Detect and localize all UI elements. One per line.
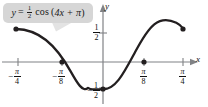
point-x-intercept-right — [141, 59, 146, 64]
numerator: π — [58, 68, 65, 76]
y-tick-label-one-half: 1 2 — [93, 24, 100, 42]
y-axis-label: y — [105, 1, 109, 11]
y-tick-label-neg-one-half: − 1 2 — [87, 82, 100, 100]
numerator: π — [140, 68, 147, 76]
equation-coefficient-fraction: 12 — [27, 5, 33, 20]
fraction: 1 2 — [93, 82, 100, 100]
point-minimum — [100, 86, 105, 91]
equation-function: cos — [35, 6, 49, 17]
callout-pointer — [52, 23, 72, 32]
fraction: π 4 — [179, 68, 186, 86]
equation-equals: = — [18, 6, 24, 17]
denominator: 4 — [179, 76, 186, 86]
numerator: 1 — [93, 82, 100, 90]
x-axis-label: x — [196, 54, 200, 64]
equation-text: y=12cos(4x + π) — [11, 6, 84, 21]
denominator: 4 — [14, 76, 21, 86]
point-endpoint-max-right — [180, 26, 185, 31]
fraction: π 8 — [140, 68, 147, 86]
numerator: 1 — [93, 24, 100, 32]
x-tick-label-pi-over-4: π 4 — [179, 68, 186, 86]
coefficient-denominator: 2 — [27, 12, 33, 20]
equation-callout: y=12cos(4x + π) — [3, 3, 93, 23]
equation-arg-close: ) — [81, 6, 84, 17]
point-x-intercept-left — [59, 59, 64, 64]
x-tick-label-neg-pi-over-4: − π 4 — [8, 68, 21, 86]
x-tick-label-neg-pi-over-8: − π 8 — [52, 68, 65, 86]
coefficient-numerator: 1 — [27, 5, 33, 12]
fraction: 1 2 — [93, 24, 100, 42]
fraction: π 8 — [58, 68, 65, 86]
denominator: 8 — [140, 76, 147, 86]
equation-lhs: y — [11, 6, 16, 17]
minus-sign: − — [8, 72, 13, 81]
numerator: π — [179, 68, 186, 76]
fraction: π 4 — [14, 68, 21, 86]
minus-sign: − — [87, 86, 92, 95]
denominator: 2 — [93, 90, 100, 100]
denominator: 8 — [58, 76, 65, 86]
numerator: π — [14, 68, 21, 76]
graph-figure: y=12cos(4x + π) x y − π 4 − π 8 π 8 π 4 — [0, 0, 208, 107]
equation-argument: 4x + π — [54, 6, 81, 17]
denominator: 2 — [93, 32, 100, 42]
x-tick-label-pi-over-8: π 8 — [140, 68, 147, 86]
point-endpoint-max-left — [13, 26, 18, 31]
minus-sign: − — [52, 72, 57, 81]
